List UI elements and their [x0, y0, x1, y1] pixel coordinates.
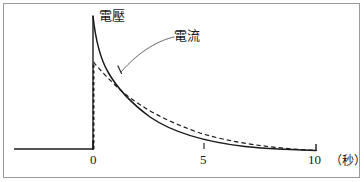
current-label-leader-arrow — [118, 66, 122, 74]
x-axis-tick-label-5: 5 — [200, 153, 207, 166]
current-series-label: 電流 — [174, 29, 200, 42]
voltage-decay-curve — [93, 16, 316, 150]
figure-root: 電壓 電流 0 5 10 （秒） — [0, 0, 364, 182]
x-axis-unit-label: （秒） — [330, 155, 364, 167]
current-decay-curve — [94, 62, 316, 151]
current-label-leader-line — [121, 37, 174, 72]
voltage-series-label: 電壓 — [99, 9, 125, 22]
x-axis-tick-label-0: 0 — [90, 153, 97, 166]
x-axis-tick-label-10: 10 — [308, 153, 321, 166]
